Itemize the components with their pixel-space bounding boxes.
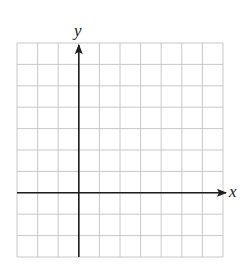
- x-axis-label: x: [229, 183, 237, 200]
- coordinate-plane: [0, 0, 250, 268]
- grid-lines: [17, 43, 223, 257]
- y-axis-label: y: [74, 22, 82, 39]
